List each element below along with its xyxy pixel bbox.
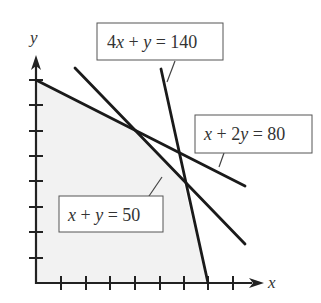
label-box-4x-y-140: 4x + y = 140 xyxy=(97,23,223,60)
lp-diagram: y x 4x + y = 140 x + 2y = 80 x + y = 50 xyxy=(0,0,321,303)
leader-4x-y-140 xyxy=(167,61,175,82)
svg-text:4x + y = 140: 4x + y = 140 xyxy=(107,32,197,52)
leader-x-2y-80 xyxy=(219,153,224,167)
y-axis-label: y xyxy=(28,28,38,47)
label-box-x-2y-80: x + 2y = 80 xyxy=(195,115,312,153)
label-box-x-y-50: x + y = 50 xyxy=(59,196,163,232)
svg-text:x + y = 50: x + y = 50 xyxy=(67,205,140,225)
feasible-region xyxy=(36,80,208,283)
svg-text:x + 2y = 80: x + 2y = 80 xyxy=(203,124,285,144)
x-axis-label: x xyxy=(267,273,276,292)
